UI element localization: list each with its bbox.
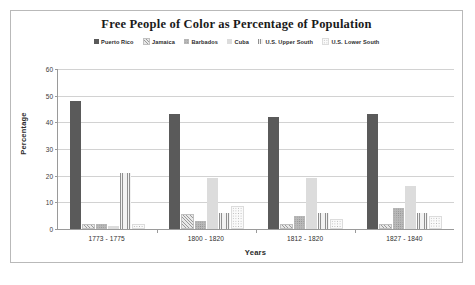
y-axis-tick-label: 50: [46, 92, 53, 99]
bar: [120, 173, 131, 229]
legend-swatch-icon: [184, 39, 189, 44]
legend-swatch-icon: [143, 38, 150, 45]
chart-legend: Puerto Rico Jamaica Barbados Cuba U.S. U…: [11, 38, 462, 45]
bar: [405, 186, 416, 229]
bar-group: [256, 69, 355, 229]
legend-label: Jamaica: [152, 39, 175, 45]
legend-item-us-upper-south: U.S. Upper South: [258, 39, 313, 45]
y-axis-tick-label: 40: [46, 119, 53, 126]
y-axis-tick-label: 60: [46, 66, 53, 73]
legend-item-us-lower-south: U.S. Lower South: [322, 38, 379, 45]
bar-group: [157, 69, 256, 229]
legend-label: Cuba: [235, 39, 249, 45]
legend-item-barbados: Barbados: [184, 39, 218, 45]
x-axis-tick-label: 1812 - 1820: [256, 235, 355, 242]
bar: [195, 221, 206, 229]
y-axis-title: Percentage: [19, 94, 28, 174]
legend-swatch-icon: [322, 38, 329, 45]
bar: [318, 213, 329, 229]
y-axis-tick-label: 0: [49, 226, 53, 233]
bar: [96, 224, 107, 229]
bar: [379, 224, 392, 229]
plot-area-wrapper: Percentage 0102030405060 1773 - 17751800…: [11, 57, 464, 263]
bar: [231, 206, 244, 229]
bar: [367, 114, 378, 229]
y-axis-tick-mark: [55, 229, 58, 230]
x-axis-tick-label: 1773 - 1775: [57, 235, 156, 242]
bar-group: [58, 69, 157, 229]
x-axis-title: Years: [57, 248, 454, 257]
legend-item-puerto-rico: Puerto Rico: [94, 39, 134, 45]
legend-swatch-icon: [94, 39, 99, 44]
bar-groups: [58, 69, 454, 229]
legend-swatch-icon: [258, 39, 263, 44]
legend-item-cuba: Cuba: [227, 39, 249, 45]
bar: [181, 214, 194, 229]
x-axis-tick-label: 1800 - 1820: [156, 235, 255, 242]
bar: [330, 219, 343, 229]
bar: [393, 208, 404, 229]
x-axis-tick-labels: 1773 - 17751800 - 18201812 - 18201827 - …: [57, 235, 454, 242]
bar: [132, 224, 145, 229]
y-axis-tick-label: 20: [46, 172, 53, 179]
y-axis-tick-label: 30: [46, 146, 53, 153]
chart-title: Free People of Color as Percentage of Po…: [11, 17, 462, 32]
bar: [108, 226, 119, 229]
x-axis-tick-label: 1827 - 1840: [355, 235, 454, 242]
legend-item-jamaica: Jamaica: [143, 38, 175, 45]
bar: [82, 224, 95, 229]
bar: [429, 216, 442, 229]
legend-label: Puerto Rico: [101, 39, 134, 45]
legend-label: U.S. Upper South: [265, 39, 313, 45]
bar-group: [355, 69, 454, 229]
bar: [70, 101, 81, 229]
y-axis-tick-label: 10: [46, 199, 53, 206]
bar: [306, 178, 317, 229]
legend-label: U.S. Lower South: [331, 39, 379, 45]
legend-label: Barbados: [191, 39, 218, 45]
chart-container: Free People of Color as Percentage of Po…: [10, 10, 463, 263]
plot-area: 0102030405060: [57, 69, 454, 230]
bar: [280, 224, 293, 229]
bar: [207, 178, 218, 229]
bar: [294, 216, 305, 229]
bar: [417, 213, 428, 229]
legend-swatch-icon: [227, 39, 232, 44]
bar: [268, 117, 279, 229]
bar: [169, 114, 180, 229]
bar: [219, 213, 230, 229]
